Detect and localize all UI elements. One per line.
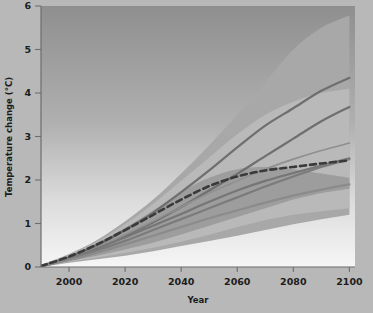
y-tick-label: 2 (24, 174, 31, 185)
chart-canvas: 0123456 200020202040206020802100 Tempera… (0, 0, 373, 313)
x-tick-label: 2020 (112, 276, 139, 287)
x-axis-title: Year (186, 295, 209, 305)
x-tick-label: 2080 (280, 276, 307, 287)
y-tick-label: 4 (24, 87, 31, 98)
y-tick-label: 1 (24, 218, 31, 229)
y-tick-label: 6 (24, 0, 31, 11)
y-tick-label: 5 (24, 44, 31, 55)
x-tick-label: 2040 (168, 276, 195, 287)
y-axis-title: Temperature change (°C) (4, 77, 14, 197)
climate-projection-figure: 0123456 200020202040206020802100 Tempera… (0, 0, 373, 313)
y-tick-label: 0 (24, 261, 31, 272)
x-tick-label: 2000 (56, 276, 83, 287)
x-tick-label: 2060 (224, 276, 251, 287)
x-tick-label: 2100 (336, 276, 363, 287)
y-tick-label: 3 (24, 131, 31, 142)
